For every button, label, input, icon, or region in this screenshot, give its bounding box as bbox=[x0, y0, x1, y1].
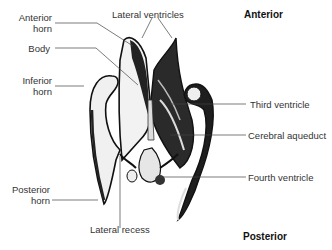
label-cerebral-aqueduct: Cerebral aqueduct bbox=[248, 130, 326, 141]
right-lateral-ventricle bbox=[150, 38, 194, 168]
label-posterior-horn: Posterior horn bbox=[12, 184, 50, 206]
label-lateral-recess: Lateral recess bbox=[90, 224, 150, 235]
label-fourth-ventricle: Fourth ventricle bbox=[248, 172, 313, 183]
orientation-posterior: Posterior bbox=[243, 231, 287, 242]
label-anterior-horn: Anterior horn bbox=[19, 12, 52, 34]
label-third-ventricle: Third ventricle bbox=[250, 99, 310, 110]
orientation-anterior: Anterior bbox=[244, 9, 283, 20]
label-lateral-ventricles: Lateral ventricles bbox=[112, 9, 184, 20]
label-inferior-horn: Inferior horn bbox=[22, 75, 52, 97]
ventricles-illustration bbox=[0, 0, 332, 250]
label-body: Body bbox=[28, 43, 50, 54]
